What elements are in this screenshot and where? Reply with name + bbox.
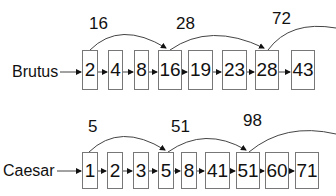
term-label-caesar: Caesar	[3, 163, 55, 179]
posting-box: 1	[82, 152, 98, 189]
posting-box: 8	[134, 50, 149, 90]
posting-box: 16	[158, 50, 182, 90]
skip-label: 5	[88, 118, 97, 135]
posting-box: 43	[291, 50, 315, 90]
posting-box: 28	[255, 50, 279, 90]
posting-box: 5	[158, 152, 174, 189]
skip-label: 51	[171, 118, 190, 135]
skip-label: 16	[89, 15, 108, 32]
posting-box: 4	[108, 50, 123, 90]
posting-box: 8	[181, 152, 197, 189]
term-label-brutus: Brutus	[12, 64, 58, 80]
posting-box: 2	[82, 50, 98, 90]
posting-box: 3	[133, 152, 149, 189]
posting-box: 2	[107, 152, 123, 189]
skip-label: 28	[176, 15, 195, 32]
posting-box: 71	[295, 152, 319, 189]
skip-label: 98	[243, 112, 262, 129]
posting-box: 19	[188, 50, 213, 90]
posting-box: 60	[265, 152, 289, 189]
posting-box: 51	[236, 152, 260, 189]
skip-label: 72	[272, 10, 291, 27]
posting-box: 23	[222, 50, 247, 90]
posting-box: 41	[205, 152, 230, 189]
